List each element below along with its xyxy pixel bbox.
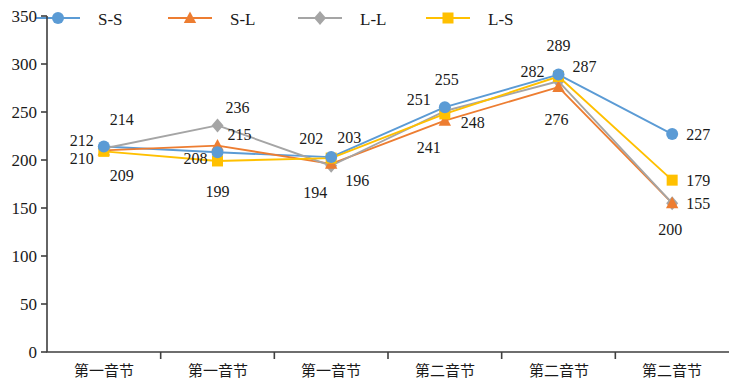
y-tick-label: 300: [12, 55, 38, 74]
data-label-s-l: 276: [545, 111, 569, 128]
legend-marker-l-s: [443, 13, 454, 24]
data-label-l-s: 202: [299, 130, 323, 147]
data-label-l-l: 194: [303, 184, 327, 201]
legend-marker-l-l: [314, 11, 326, 25]
y-axis-tick-labels: 050100150200250300350: [12, 7, 38, 362]
x-category-label: 第一音节: [188, 362, 248, 379]
axis-lines: [47, 16, 729, 352]
data-label-l-s: 209: [110, 167, 134, 184]
x-axis-category-labels: 第一音节第一音节第一音节第二音节第二音节第二音节: [74, 362, 702, 379]
y-tick-label: 0: [29, 343, 38, 362]
data-label-s-s: 214: [110, 111, 134, 128]
chart-axes: [41, 16, 729, 359]
data-point-s-s: [439, 101, 451, 113]
x-category-label: 第二音节: [642, 362, 702, 379]
data-label-l-s: 287: [573, 58, 597, 75]
data-label-l-l: 282: [521, 63, 545, 80]
data-label-l-s: 199: [206, 183, 230, 200]
x-category-label: 第二音节: [529, 362, 589, 379]
y-tick-label: 250: [12, 103, 38, 122]
data-point-s-s: [98, 141, 110, 153]
legend-marker-s-s: [52, 12, 64, 24]
data-label-l-l: 251: [407, 91, 431, 108]
data-label-s-s: 227: [686, 126, 710, 143]
data-point-s-s: [325, 151, 337, 163]
y-tick-label: 150: [12, 199, 38, 218]
data-label-s-l: 196: [345, 172, 369, 189]
y-tick-label: 100: [12, 247, 38, 266]
data-label-l-l: 236: [226, 99, 250, 116]
chart-legend: S-SS-LL-LL-S: [36, 10, 514, 29]
line-chart: S-SS-LL-LL-S 050100150200250300350 第一音节第…: [0, 0, 733, 386]
data-label-l-s: 179: [686, 172, 710, 189]
legend-label-s-s: S-S: [98, 10, 123, 29]
data-label-s-s: 289: [547, 37, 571, 54]
series-line-s-l: [104, 87, 672, 203]
data-point-l-l: [212, 118, 224, 132]
data-label-s-s: 255: [435, 71, 459, 88]
data-label-s-l: 215: [228, 126, 252, 143]
legend-label-l-l: L-L: [360, 10, 386, 29]
data-label-l-l: 200: [658, 221, 682, 238]
legend-label-s-l: S-L: [230, 10, 256, 29]
data-point-l-s: [667, 175, 678, 186]
x-category-label: 第一音节: [301, 362, 361, 379]
data-label-l-l: 212: [70, 132, 94, 149]
data-point-s-s: [553, 69, 565, 81]
data-label-s-l: 241: [417, 139, 441, 156]
y-tick-label: 350: [12, 7, 38, 26]
x-category-label: 第二音节: [415, 362, 475, 379]
data-label-s-s: 208: [184, 150, 208, 167]
data-label-s-l: 155: [686, 195, 710, 212]
data-point-s-s: [666, 128, 678, 140]
x-category-label: 第一音节: [74, 362, 134, 379]
data-label-s-l: 210: [70, 150, 94, 167]
legend-label-l-s: L-S: [488, 10, 514, 29]
series-lines: [104, 75, 672, 204]
y-tick-label: 50: [20, 295, 37, 314]
y-tick-label: 200: [12, 151, 38, 170]
data-label-s-s: 203: [337, 129, 361, 146]
data-point-s-s: [212, 146, 224, 158]
chart-svg: S-SS-LL-LL-S 050100150200250300350 第一音节第…: [0, 0, 733, 386]
data-label-l-s: 248: [461, 114, 485, 131]
